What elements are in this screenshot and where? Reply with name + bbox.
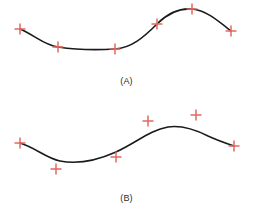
panel-b bbox=[15, 110, 240, 175]
data-point-marker bbox=[15, 138, 26, 149]
figure-canvas bbox=[0, 0, 253, 211]
data-point-marker bbox=[53, 42, 64, 53]
data-point-marker bbox=[191, 110, 202, 121]
panel-a bbox=[15, 4, 237, 55]
fitted-curve-a bbox=[20, 9, 231, 50]
fitted-curve-b bbox=[20, 127, 234, 163]
figure-container: (A) (B) bbox=[0, 0, 253, 211]
data-point-marker bbox=[51, 164, 62, 175]
data-point-marker bbox=[110, 44, 121, 55]
data-point-marker bbox=[187, 4, 198, 15]
data-point-marker bbox=[15, 24, 26, 35]
panel-b-caption: (B) bbox=[0, 193, 253, 203]
data-point-marker bbox=[229, 141, 240, 152]
panel-a-caption: (A) bbox=[0, 76, 253, 86]
data-point-marker bbox=[143, 116, 154, 127]
